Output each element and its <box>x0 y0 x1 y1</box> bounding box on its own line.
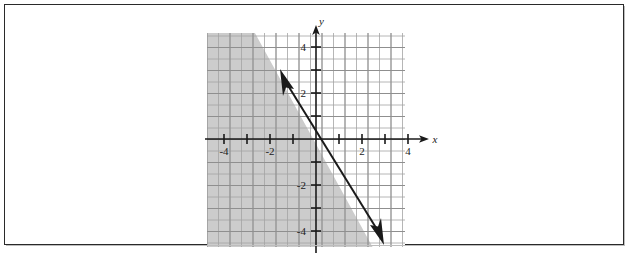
figure-frame: -4 -2 2 4 4 2 -2 -4 x y <box>4 4 624 245</box>
graph-svg: -4 -2 2 4 4 2 -2 -4 x y <box>195 15 440 253</box>
y-tick-label-4: 4 <box>301 41 307 53</box>
y-tick-label-neg2: -2 <box>297 179 306 191</box>
page-canvas: -4 -2 2 4 4 2 -2 -4 x y <box>0 0 630 254</box>
x-tick-label-neg4: -4 <box>219 145 229 157</box>
x-axis-label: x <box>432 133 438 145</box>
coordinate-graph: -4 -2 2 4 4 2 -2 -4 x y <box>195 15 440 253</box>
x-tick-label-4: 4 <box>405 145 411 157</box>
y-tick-label-2: 2 <box>301 87 307 99</box>
y-axis-label: y <box>318 15 324 27</box>
x-tick-label-2: 2 <box>359 145 365 157</box>
y-tick-label-neg4: -4 <box>297 225 307 237</box>
x-tick-label-neg2: -2 <box>265 145 274 157</box>
